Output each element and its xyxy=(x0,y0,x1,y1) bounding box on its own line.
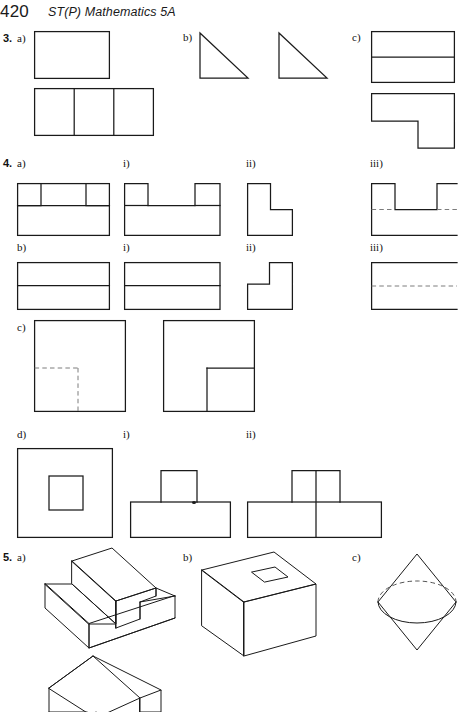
figure-4d-ii-tower-on-base-divided xyxy=(247,470,382,538)
part-label-4a-i: i) xyxy=(123,157,130,169)
part-label-3a: a) xyxy=(17,32,26,44)
join-marker-dot xyxy=(192,501,196,504)
figure-5c-bicone xyxy=(372,550,462,660)
part-label-4c: c) xyxy=(17,321,26,333)
figure-3c-l-shape xyxy=(371,93,455,149)
part-label-3c: c) xyxy=(352,31,361,43)
part-label-4a-ii: ii) xyxy=(246,157,256,169)
running-head: 420 ST(P) Mathematics 5A xyxy=(0,2,457,24)
figure-4d-i-tower-on-base xyxy=(130,470,231,538)
figure-4c-square-solid-quadrant xyxy=(163,320,255,412)
part-label-4a: a) xyxy=(17,157,26,169)
part-label-4d-i: i) xyxy=(123,428,130,440)
figure-5b-cube-with-hole xyxy=(196,548,321,658)
figure-3a-plan-rectangle xyxy=(34,31,110,79)
page-number: 420 xyxy=(0,2,29,22)
question-number-3: 3. xyxy=(3,32,12,44)
part-label-4d: d) xyxy=(17,428,26,440)
part-label-5b: b) xyxy=(183,551,192,563)
figure-4a-ii-side-elevation xyxy=(247,183,293,236)
figure-4a-i-plan-two-towers xyxy=(124,183,221,236)
part-label-5a: a) xyxy=(17,551,26,563)
figure-4b-i-plan-split-rectangle xyxy=(124,262,221,310)
figure-3b-right-triangle-left xyxy=(198,31,250,81)
figure-3a-elevation-three-panels xyxy=(34,88,154,136)
question-number-4: 4. xyxy=(3,157,12,169)
figure-5a-two-step-staircase xyxy=(27,546,187,651)
figure-4c-square-dashed-quadrant xyxy=(34,320,126,412)
part-label-3b: b) xyxy=(183,31,192,43)
part-label-4a-iii: iii) xyxy=(370,157,383,169)
part-label-4b: b) xyxy=(17,241,26,253)
figure-4a-iii-end-elevation xyxy=(371,183,457,236)
part-label-4d-ii: ii) xyxy=(246,428,256,440)
figure-4b-ii-side-elevation xyxy=(247,262,293,310)
part-label-5c: c) xyxy=(352,551,361,563)
part-label-4b-ii: ii) xyxy=(246,241,256,253)
figure-3b-right-triangle-right xyxy=(277,31,329,81)
part-label-4b-iii: iii) xyxy=(370,241,383,253)
figure-4d-square-in-square xyxy=(17,448,113,538)
figure-4a-front-elevation xyxy=(17,183,110,236)
figure-4b-iii-end-elevation xyxy=(371,262,457,310)
figure-5a-ridge-prism xyxy=(27,648,167,712)
question-number-5: 5. xyxy=(3,551,12,563)
book-title: ST(P) Mathematics 5A xyxy=(48,5,176,19)
part-label-4b-i: i) xyxy=(123,241,130,253)
figure-4b-elevation-split-rectangle xyxy=(17,262,110,310)
figure-3c-rectangle-split xyxy=(371,31,455,83)
